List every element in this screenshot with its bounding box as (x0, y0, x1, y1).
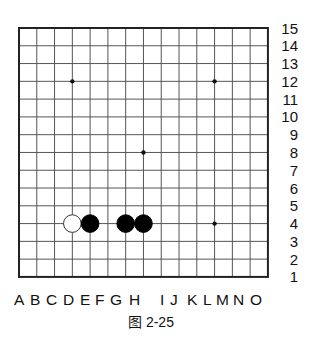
row-label: 11 (268, 92, 298, 107)
column-label: I (160, 292, 165, 308)
column-label: G (110, 292, 122, 308)
row-label: 4 (268, 216, 298, 231)
star-point-icon (141, 150, 145, 154)
row-label: 14 (268, 38, 298, 53)
column-label: M (216, 292, 229, 308)
column-label: K (187, 292, 198, 308)
column-label: B (30, 292, 41, 308)
row-label: 1 (268, 269, 298, 284)
black-stone-G4 (117, 215, 135, 233)
column-label: C (46, 292, 58, 308)
row-label: 5 (268, 198, 298, 213)
column-label: O (250, 292, 262, 308)
row-label: 3 (268, 234, 298, 249)
row-label: 15 (268, 21, 298, 36)
star-point-icon (70, 79, 74, 83)
star-point-icon (212, 221, 216, 225)
figure-caption: 图 2-25 (0, 314, 302, 330)
column-label: F (95, 292, 105, 308)
row-label: 9 (268, 127, 298, 142)
column-label: N (233, 292, 245, 308)
column-label: J (170, 292, 178, 308)
row-label: 8 (268, 145, 298, 160)
row-label: 7 (268, 163, 298, 178)
row-label: 6 (268, 181, 298, 196)
go-board (0, 0, 313, 290)
row-label: 2 (268, 252, 298, 267)
column-label: H (129, 292, 141, 308)
row-label: 10 (268, 109, 298, 124)
white-stone-D4 (64, 215, 82, 233)
row-label: 13 (268, 56, 298, 71)
column-label: A (14, 292, 25, 308)
column-label: D (63, 292, 75, 308)
column-label: E (80, 292, 91, 308)
row-label: 12 (268, 74, 298, 89)
column-label: L (203, 292, 212, 308)
black-stone-H4 (135, 215, 153, 233)
black-stone-E4 (81, 215, 99, 233)
star-point-icon (212, 79, 216, 83)
